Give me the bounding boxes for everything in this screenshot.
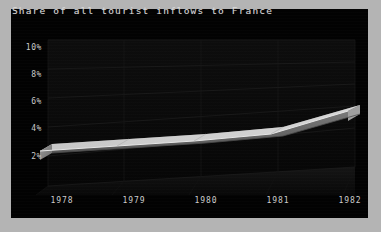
x-axis-label-1982: 1982	[339, 196, 362, 205]
plot-back-wall	[48, 40, 355, 186]
x-axis-label-1980: 1980	[195, 196, 218, 205]
screenshot-root: Share of all tourist inflows to France 1…	[0, 0, 381, 232]
x-axis-label-1978: 1978	[51, 196, 74, 205]
y-axis-label-10pct: 10%	[8, 43, 42, 52]
chart-svg	[11, 9, 368, 218]
y-axis-label-2pct: 2%	[8, 152, 42, 161]
x-axis-label-1981: 1981	[267, 196, 290, 205]
y-axis-label-8pct: 8%	[8, 70, 42, 79]
y-axis-label-4pct: 4%	[8, 124, 42, 133]
chart-canvas	[11, 9, 368, 218]
y-axis-label-6pct: 6%	[8, 97, 42, 106]
plot-area	[11, 9, 368, 218]
x-axis-label-1979: 1979	[123, 196, 146, 205]
chart-title: Share of all tourist inflows to France	[12, 5, 273, 16]
